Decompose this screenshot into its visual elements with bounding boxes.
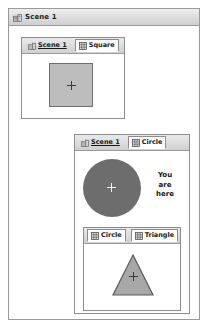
tab-square[interactable]: Square [75, 39, 119, 52]
screenshot-root: Scene 1 Scene 1 [0, 0, 207, 328]
circle-shape[interactable] [83, 159, 141, 217]
tab-circle[interactable]: Circle [128, 136, 167, 149]
window-titlebar: Scene 1 [9, 9, 199, 26]
panel-square-body [22, 54, 124, 118]
tab-label: Scene 1 [91, 139, 120, 146]
grid-icon [135, 232, 143, 240]
window-title: Scene 1 [25, 13, 57, 21]
panel-triangle-tabbar: Circle Triangle [84, 228, 180, 244]
tab-scene-1[interactable]: Scene 1 [25, 39, 70, 52]
square-shape[interactable] [49, 63, 93, 107]
main-window: Scene 1 Scene 1 [8, 8, 200, 320]
panel-square-tabbar: Scene 1 Square [22, 38, 124, 54]
panel-triangle: Circle Triangle [83, 227, 181, 311]
panel-circle: Scene 1 Circle You are here [74, 134, 190, 314]
tab-label: Square [89, 42, 115, 49]
tab-triangle[interactable]: Triangle [131, 229, 178, 242]
tab-label: Scene 1 [38, 42, 67, 49]
building-icon [13, 13, 22, 22]
tab-scene-1[interactable]: Scene 1 [78, 136, 123, 149]
tab-label: Circle [142, 139, 163, 146]
panel-circle-body: You are here Circle [75, 151, 189, 313]
panel-circle-tabbar: Scene 1 Circle [75, 135, 189, 151]
tab-circle[interactable]: Circle [87, 229, 126, 242]
panel-triangle-body [84, 244, 180, 310]
grid-icon [79, 42, 87, 50]
crosshair-marker [107, 183, 116, 192]
crosshair-marker [67, 81, 76, 90]
grid-icon [132, 139, 140, 147]
tab-label: Circle [101, 232, 122, 239]
building-icon [81, 139, 89, 147]
building-icon [28, 42, 36, 50]
panel-square: Scene 1 Square [21, 37, 125, 119]
grid-icon [91, 232, 99, 240]
tab-label: Triangle [145, 232, 174, 239]
you-are-here-annotation: You are here [147, 171, 183, 200]
triangle-shape[interactable] [110, 252, 156, 298]
